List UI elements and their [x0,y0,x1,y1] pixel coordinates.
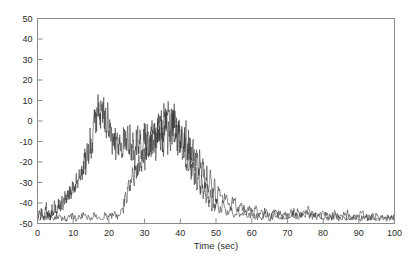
x-tick-label: 20 [104,228,114,238]
plot-frame [38,19,395,224]
x-tick-label: 70 [282,228,292,238]
y-tick-label: 40 [22,34,32,44]
x-tick-label: 0 [35,228,40,238]
data-trace-1 [38,94,395,221]
x-tick-label: 30 [140,228,150,238]
y-tick-label: 20 [22,75,32,85]
y-tick-label: 0 [27,116,32,126]
y-axis-ticks [38,19,43,224]
y-tick-label: -30 [19,178,32,188]
data-traces [38,94,395,221]
x-tick-label: 80 [318,228,328,238]
y-tick-label: -20 [19,157,32,167]
y-tick-label: 10 [22,96,32,106]
y-tick-label: 30 [22,55,32,65]
y-tick-label: 50 [22,14,32,24]
x-axis-title: Time (sec) [194,240,239,251]
y-tick-label: -50 [19,219,32,229]
x-tick-label: 10 [68,228,78,238]
y-axis-tick-labels: 50403020100-10-20-30-40-50 [19,14,32,229]
plot-svg: 50403020100-10-20-30-40-50 0102030405060… [0,0,414,261]
x-tick-label: 50 [211,228,221,238]
x-tick-label: 60 [247,228,257,238]
chart-figure: 50403020100-10-20-30-40-50 0102030405060… [0,0,414,261]
y-tick-label: -10 [19,137,32,147]
y-tick-label: -40 [19,198,32,208]
x-tick-label: 40 [175,228,185,238]
x-tick-label: 90 [354,228,364,238]
x-tick-label: 100 [387,228,402,238]
x-axis-tick-labels: 0102030405060708090100 [35,228,402,238]
